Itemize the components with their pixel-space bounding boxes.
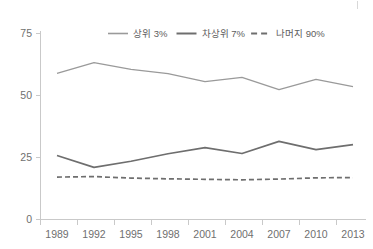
- x-tick-label-2007: 2007: [267, 228, 291, 240]
- series-line-2: [57, 177, 353, 180]
- x-tick-label-2004: 2004: [230, 228, 254, 240]
- series-group: [57, 63, 353, 180]
- x-tick-label-2001: 2001: [193, 228, 217, 240]
- legend-label-top3: 상위 3%: [133, 28, 168, 39]
- x-tick-label-2010: 2010: [304, 228, 328, 240]
- x-tick-label-1989: 1989: [45, 228, 69, 240]
- chart-legend: 상위 3% 차상위 7% 나머지 90%: [108, 28, 325, 39]
- x-tick-label-1992: 1992: [82, 228, 106, 240]
- legend-label-next7: 차상위 7%: [202, 28, 246, 39]
- y-tick-label-25: 25: [20, 151, 32, 163]
- series-line-0: [57, 63, 353, 90]
- chart-canvas: 75 50 25 0 1989 1992 1995 1998 2001 2004…: [0, 0, 373, 249]
- y-tick-label-50: 50: [20, 89, 32, 101]
- x-tick-label-1998: 1998: [156, 228, 180, 240]
- x-tick-label-1995: 1995: [119, 228, 143, 240]
- x-tick-marks: [41, 220, 337, 226]
- y-tick-label-0: 0: [26, 213, 32, 225]
- legend-label-rest90: 나머지 90%: [276, 28, 325, 39]
- series-line-1: [57, 141, 353, 167]
- line-chart: 75 50 25 0 1989 1992 1995 1998 2001 2004…: [0, 0, 373, 249]
- x-tick-label-2013: 2013: [341, 228, 365, 240]
- y-tick-label-75: 75: [20, 27, 32, 39]
